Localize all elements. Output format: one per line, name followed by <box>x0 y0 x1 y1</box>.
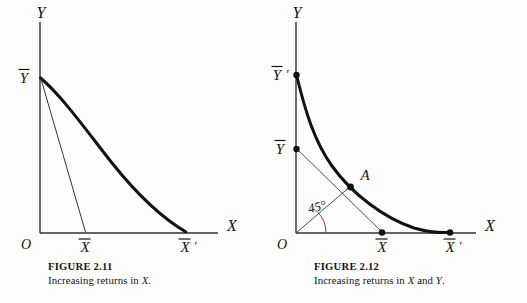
tick-x-bar: X <box>376 239 388 255</box>
tick-x-bar-prime-mark: ′ <box>195 238 198 253</box>
tick-x-bar-prime: X ′ <box>444 238 463 255</box>
x-axis-label: X <box>226 217 238 234</box>
origin-label: O <box>21 237 31 252</box>
caption-text-pre: Increasing returns in <box>48 274 142 286</box>
tick-y-bar-prime-label: Y <box>273 67 283 83</box>
chord-line <box>297 149 382 232</box>
tick-y-bar-label: Y <box>20 70 30 86</box>
figure-2-11: Y X O Y X X ′ FIGURE 2.11 Inc <box>0 0 264 303</box>
figure-2-12-caption: FIGURE 2.12 Increasing returns in X and … <box>314 261 524 287</box>
dot-x-bar-prime <box>447 229 453 235</box>
figure-2-11-caption-text: Increasing returns in X. <box>48 274 258 287</box>
dot-point-a <box>347 184 354 191</box>
tick-y-bar: Y <box>19 70 30 87</box>
point-a-label: A <box>359 167 370 183</box>
dot-y-bar <box>293 146 299 152</box>
caption-text-post: . <box>148 274 151 286</box>
tick-x-bar-label: X <box>79 239 90 255</box>
tick-x-bar-prime: X ′ <box>179 238 198 255</box>
tick-y-bar-prime-mark: ′ <box>287 66 290 81</box>
figure-2-11-plot: Y X O Y X X ′ <box>0 0 264 260</box>
figure-2-12-caption-text: Increasing returns in X and Y. <box>314 274 524 287</box>
figure-page: Y X O Y X X ′ FIGURE 2.11 Inc <box>0 0 527 303</box>
angle-45-arc <box>318 212 327 233</box>
figure-2-11-caption: FIGURE 2.11 Increasing returns in X. <box>48 261 258 287</box>
dot-x-bar <box>379 229 385 235</box>
tick-x-bar-prime-label: X <box>444 239 455 255</box>
tick-y-bar-label: Y <box>276 141 286 157</box>
x-axis-label: X <box>484 217 496 234</box>
figure-2-12: Y X O Y ′ Y X X ′ <box>264 0 527 303</box>
caption-text-pre: Increasing returns in <box>314 274 408 286</box>
caption-text-mid: and <box>414 274 436 286</box>
y-axis-label: Y <box>37 4 48 21</box>
caption-text-post: . <box>442 274 445 286</box>
tick-x-bar-prime-label: X <box>179 239 190 255</box>
tick-y-bar: Y <box>275 141 286 158</box>
origin-label: O <box>277 237 287 252</box>
figure-2-11-caption-title: FIGURE 2.11 <box>48 261 258 274</box>
tick-x-bar-prime-mark: ′ <box>460 238 463 253</box>
figure-2-12-plot: Y X O Y ′ Y X X ′ <box>264 0 527 260</box>
tick-y-bar-prime: Y ′ <box>272 66 290 83</box>
tick-x-bar-label: X <box>376 239 387 255</box>
angle-45-label: 45° <box>306 197 327 216</box>
tick-x-bar: X <box>79 239 91 255</box>
isoquant-curve <box>41 78 187 232</box>
figure-2-12-caption-title: FIGURE 2.12 <box>314 261 524 274</box>
y-axis-label: Y <box>293 4 304 21</box>
dot-y-bar-prime <box>293 72 299 78</box>
